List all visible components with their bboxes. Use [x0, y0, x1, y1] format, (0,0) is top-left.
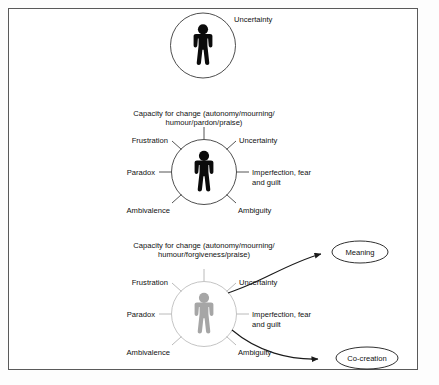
figure-frame	[8, 8, 418, 370]
figure-root: Uncertainty Capacity for change (autonom…	[0, 0, 439, 385]
